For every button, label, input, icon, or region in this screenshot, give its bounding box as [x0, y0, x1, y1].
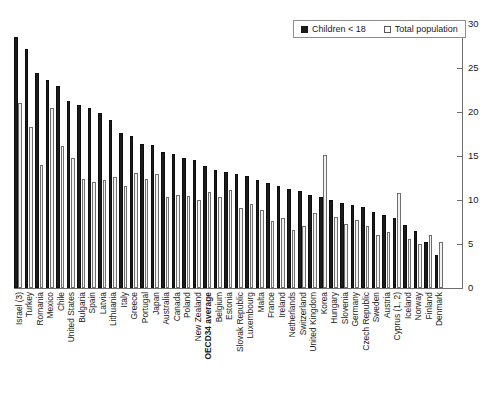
bar-total-population [302, 226, 306, 288]
x-axis-label-text: Ireland [277, 292, 285, 318]
bar-children [46, 80, 50, 288]
bar-total-population [208, 192, 212, 288]
y-axis-tick [457, 156, 463, 157]
x-axis-label-text: Slovenia [341, 292, 349, 324]
bar-total-population [387, 232, 391, 288]
bar-group [319, 24, 330, 288]
x-axis-label-text: Latvia [99, 292, 107, 314]
y-axis-tick-label: 5 [468, 239, 473, 249]
bar-children [277, 186, 281, 288]
bar-group [67, 24, 78, 288]
bar-total-population [197, 200, 201, 288]
x-axis-label-text: France [267, 292, 275, 318]
x-axis-label: New Zealand [193, 290, 204, 390]
bar-children [435, 255, 439, 288]
x-axis-label-text: Belgium [214, 292, 222, 322]
x-axis-label-text: Estonia [225, 292, 233, 320]
x-axis-label-text: Hungary [330, 292, 338, 324]
x-axis-label: France [266, 290, 277, 390]
bar-group [435, 24, 446, 288]
bar-total-population [187, 196, 191, 288]
bar-children [340, 203, 344, 288]
bar-group [245, 24, 256, 288]
x-axis-label: Lithuania [109, 290, 120, 390]
bar-children [77, 105, 81, 288]
bar-children [256, 180, 260, 288]
x-axis-label: Norway [414, 290, 425, 390]
bar-children [67, 101, 71, 288]
bar-group [287, 24, 298, 288]
bar-group [329, 24, 340, 288]
bar-total-population [408, 239, 412, 288]
y-axis-tick-label: 25 [468, 63, 479, 73]
x-axis-label: Cyprus (1, 2) [393, 290, 404, 390]
chart-legend: Children < 18 Total population [293, 20, 466, 38]
x-axis-label: Belgium [214, 290, 225, 390]
bar-group [414, 24, 425, 288]
x-axis-label-text: United States [67, 292, 75, 342]
bar-total-population [429, 235, 433, 288]
bar-total-population [334, 217, 338, 288]
x-axis-label-text: Iceland [404, 292, 412, 319]
bar-total-population [134, 173, 138, 288]
bar-children [245, 176, 249, 288]
bar-group [393, 24, 404, 288]
x-axis-label-text: Luxembourg [246, 292, 254, 339]
bar-children [319, 197, 323, 288]
x-axis-label: Sweden [372, 290, 383, 390]
x-axis-label-text: Turkey [25, 292, 33, 317]
bar-group [98, 24, 109, 288]
bar-children [88, 108, 92, 288]
x-axis-label: Germany [351, 290, 362, 390]
bar-group [140, 24, 151, 288]
bar-group [403, 24, 414, 288]
x-axis-label: Netherlands [287, 290, 298, 390]
bar-group [130, 24, 141, 288]
bar-group [161, 24, 172, 288]
x-axis-label-text: Austria [383, 292, 391, 318]
open-square-icon [384, 26, 391, 33]
x-axis-label-text: Bulgaria [78, 292, 86, 323]
x-axis-label: Japan [151, 290, 162, 390]
bar-total-population [323, 155, 327, 288]
bar-children [161, 152, 165, 288]
bar-children [329, 200, 333, 288]
x-axis-label-text: Germany [351, 292, 359, 326]
bar-total-population [18, 103, 22, 288]
bar-total-population [439, 242, 443, 288]
bar-group [266, 24, 277, 288]
bar-total-population [250, 204, 254, 288]
plot-area [14, 24, 458, 288]
bar-children [56, 86, 60, 288]
bar-children [182, 158, 186, 288]
bar-group [340, 24, 351, 288]
bar-children [235, 174, 239, 288]
x-axis-label: Malta [256, 290, 267, 390]
x-axis-label-text: Greece [130, 292, 138, 319]
bar-children [203, 166, 207, 288]
x-axis-label-text: Mexico [46, 292, 54, 319]
x-axis-label-text: Lithuania [109, 292, 117, 326]
bar-children [109, 120, 113, 288]
x-axis-label-text: Romania [36, 292, 44, 326]
y-axis-tick [457, 112, 463, 113]
x-axis-label-text: Poland [183, 292, 191, 318]
bar-total-population [166, 197, 170, 288]
x-axis-label-text: Malta [256, 292, 264, 312]
bar-total-population [29, 127, 33, 288]
bar-group [256, 24, 267, 288]
y-axis-tick-label: 0 [468, 283, 473, 293]
bar-group [203, 24, 214, 288]
x-axis-label-text: Japan [151, 292, 159, 315]
bar-group [308, 24, 319, 288]
x-axis-label-text: Czech Republic [362, 292, 370, 351]
y-axis-tick-label: 15 [468, 151, 479, 161]
bar-group [151, 24, 162, 288]
bar-total-population [418, 244, 422, 288]
x-axis-label: Turkey [25, 290, 36, 390]
bar-group [277, 24, 288, 288]
bar-group [182, 24, 193, 288]
bar-children [193, 160, 197, 288]
bar-total-population [313, 213, 317, 288]
legend-item-children: Children < 18 [301, 25, 366, 34]
